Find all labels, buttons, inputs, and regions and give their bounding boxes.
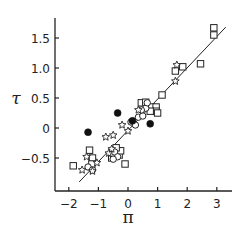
star-marker	[102, 133, 110, 140]
y-tick-label: 0	[42, 122, 50, 136]
x-axis-label: π	[122, 207, 133, 227]
y-tick-label: 1.5	[31, 32, 50, 46]
open-circle-marker	[110, 156, 116, 162]
square-marker	[70, 163, 76, 169]
x-tick-label: −2	[60, 197, 78, 211]
filled-circle-marker	[114, 110, 121, 117]
square-marker	[180, 64, 186, 70]
filled-circle-marker	[129, 117, 136, 124]
x-tick-label: −1	[90, 197, 108, 211]
filled-circle-marker	[147, 120, 154, 127]
square-marker	[211, 25, 217, 31]
square-marker	[159, 92, 165, 98]
y-tick-label: −0.5	[21, 152, 50, 166]
square-marker	[172, 68, 178, 74]
filled-circle-marker	[85, 129, 92, 136]
star-marker	[118, 121, 126, 128]
square-marker	[154, 110, 160, 116]
y-tick-label: 1.0	[31, 62, 50, 76]
star-marker	[109, 131, 117, 138]
open-circle-marker	[144, 100, 150, 106]
square-marker	[197, 61, 203, 67]
x-tick-label: 3	[213, 197, 221, 211]
data-points	[70, 25, 217, 175]
x-tick-label: 2	[183, 197, 191, 211]
square-marker	[86, 147, 92, 153]
open-circle-marker	[140, 113, 146, 119]
y-axis-label: τ	[11, 88, 21, 108]
y-tick-label: 0.5	[31, 92, 50, 106]
square-marker	[122, 161, 128, 167]
x-tick-label: 1	[154, 197, 162, 211]
axes: −2−10123−0.500.51.01.5	[21, 18, 232, 211]
scatter-chart: −2−10123−0.500.51.01.5 τ π	[0, 0, 245, 230]
square-marker	[211, 32, 217, 38]
